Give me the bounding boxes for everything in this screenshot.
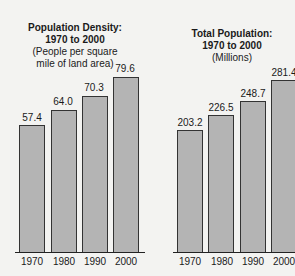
title-line-1: Population Density: (0, 22, 150, 34)
x-tick-label: 1970 (174, 256, 206, 267)
bar-value-label: 203.2 (170, 117, 210, 128)
title-line-1: Total Population: (172, 28, 292, 40)
subtitle-line-1: (People per square (0, 46, 150, 58)
bar-1970 (19, 125, 45, 252)
bar-value-label: 226.5 (201, 102, 241, 113)
bar-1990 (240, 101, 266, 252)
x-tick-label: 1980 (48, 256, 80, 267)
bar-1980 (208, 115, 234, 252)
bar-1980 (51, 110, 77, 252)
bar-value-label: 248.7 (233, 88, 273, 99)
subtitle-line-1: (Millions) (172, 52, 292, 64)
bar-value-label: 281.4 (264, 67, 295, 78)
bar-2000 (113, 77, 139, 252)
bar-value-label: 79.6 (105, 63, 145, 74)
x-tick-label: 1990 (79, 256, 111, 267)
title-line-2: 1970 to 2000 (0, 34, 150, 46)
bar-1990 (82, 96, 108, 252)
chart-title: Total Population: 1970 to 2000 (Millions… (172, 28, 292, 64)
x-tick-label: 2000 (268, 256, 295, 267)
x-tick-label: 1980 (206, 256, 238, 267)
population-density-chart: Population Density: 1970 to 2000 (People… (0, 0, 150, 276)
x-tick-label: 2000 (110, 256, 142, 267)
bar-1970 (177, 130, 203, 252)
bar-value-label: 70.3 (74, 82, 114, 93)
bar-value-label: 64.0 (43, 96, 83, 107)
bar-2000 (271, 80, 295, 252)
total-population-chart: Total Population: 1970 to 2000 (Millions… (150, 0, 295, 276)
bar-value-label: 57.4 (12, 112, 52, 123)
x-axis (15, 252, 145, 253)
x-tick-label: 1970 (16, 256, 48, 267)
x-axis (173, 252, 295, 253)
title-line-2: 1970 to 2000 (172, 40, 292, 52)
x-tick-label: 1990 (237, 256, 269, 267)
